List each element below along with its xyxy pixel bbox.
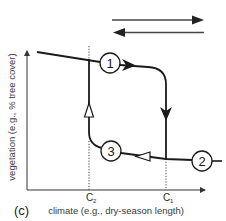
x-axis-label: climate (e.g., dry-season length) [48,205,184,216]
axes [27,51,205,190]
tick-c2: C 2 [86,192,97,204]
state-1-label: 1 [106,56,113,71]
state-2-label: 2 [198,154,205,169]
y-axis-label: vegetation (e.g., % tree cover) [6,53,17,180]
state-3-marker: 3 [101,141,121,161]
left-arrow-icon [113,28,204,37]
open-up-arrowhead-icon [85,103,94,117]
tick-c1-subscript: 1 [170,198,174,204]
tick-c2-subscript: 2 [93,198,97,204]
direction-legend [112,16,204,38]
panel-label: (c) [14,203,29,218]
state-3-label: 3 [107,144,114,159]
open-left-arrowhead-icon [136,152,150,161]
hysteresis-diagram: 1 2 3 C 2 C 1 climate (e.g., dry-season … [0,0,226,221]
state-1-marker: 1 [100,53,120,73]
state-2-marker: 2 [192,151,212,171]
right-arrow-icon [112,16,204,25]
tick-c1: C 1 [163,192,174,204]
